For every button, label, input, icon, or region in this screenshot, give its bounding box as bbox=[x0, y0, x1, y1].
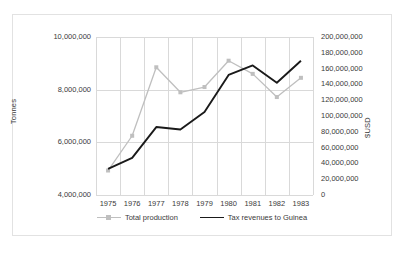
y-axis-left-tick-label: 4,000,000 bbox=[33, 190, 91, 199]
y-axis-right-tick-label: 140,000,000 bbox=[321, 79, 381, 88]
series-lines bbox=[96, 37, 313, 195]
y-axis-right-tick-label: 180,000,000 bbox=[321, 48, 381, 57]
chart-container: Tonnes $USD 4,000,0006,000,0008,000,0001… bbox=[12, 14, 392, 236]
y-axis-right-tick-label: 100,000,000 bbox=[321, 111, 381, 120]
x-axis-tick-label: 1983 bbox=[286, 199, 316, 208]
series-marker bbox=[203, 85, 207, 89]
gridline-vertical bbox=[313, 37, 314, 195]
y-axis-right-tick-label: 20,000,000 bbox=[321, 174, 381, 183]
series-marker bbox=[299, 76, 303, 80]
series-marker bbox=[251, 72, 255, 76]
y-axis-right-tick-label: 160,000,000 bbox=[321, 64, 381, 73]
series-marker bbox=[154, 65, 158, 69]
gridline-horizontal bbox=[96, 195, 313, 196]
y-axis-left-tick-label: 6,000,000 bbox=[33, 137, 91, 146]
legend-entry[interactable]: Total production bbox=[97, 213, 178, 222]
y-axis-right-tick-label: 120,000,000 bbox=[321, 95, 381, 104]
legend-label: Tax revenues to Guinea bbox=[228, 213, 307, 222]
plot-area bbox=[96, 37, 313, 195]
legend-swatch-icon bbox=[97, 214, 121, 222]
y-axis-right-tick-label: 80,000,000 bbox=[321, 127, 381, 136]
legend-entry[interactable]: Tax revenues to Guinea bbox=[200, 213, 307, 222]
y-axis-right-tick-label: 200,000,000 bbox=[321, 32, 381, 41]
series-line bbox=[108, 61, 301, 169]
y-axis-left-tick-label: 8,000,000 bbox=[33, 85, 91, 94]
y-axis-left-tick-label: 10,000,000 bbox=[33, 32, 91, 41]
y-axis-right-tick-label: 0 bbox=[321, 190, 381, 199]
series-marker bbox=[275, 95, 279, 99]
series-line bbox=[108, 61, 301, 171]
y-axis-right-tick-label: 60,000,000 bbox=[321, 143, 381, 152]
series-marker bbox=[178, 90, 182, 94]
y-axis-right-tick-label: 40,000,000 bbox=[321, 158, 381, 167]
legend-label: Total production bbox=[125, 213, 178, 222]
y-axis-left-title: Tonnes bbox=[9, 99, 18, 124]
chart-legend: Total productionTax revenues to Guinea bbox=[13, 213, 391, 222]
legend-swatch-icon bbox=[200, 214, 224, 222]
series-marker bbox=[227, 59, 231, 63]
series-marker bbox=[130, 134, 134, 138]
